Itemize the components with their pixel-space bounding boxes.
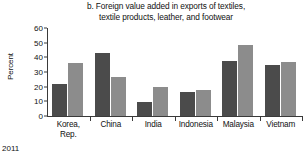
x-axis-category-label: Vietnam (260, 120, 303, 130)
bar (265, 65, 280, 116)
bar-group (132, 28, 175, 116)
x-axis-category-label-line: Rep. (47, 130, 90, 140)
bar-group (90, 28, 133, 116)
footnote: 2011 (2, 144, 19, 153)
bar-group (217, 28, 260, 116)
x-axis-category-label-line: China (90, 120, 133, 130)
bar-group (47, 28, 90, 116)
bar-group (175, 28, 218, 116)
x-axis-group-divider (260, 117, 261, 121)
bar (111, 77, 126, 116)
bar (68, 63, 83, 116)
bar (52, 84, 67, 116)
x-axis-category-label-line: Vietnam (260, 120, 303, 130)
bar (95, 53, 110, 116)
plot-area: 0102030405060 (47, 28, 302, 116)
x-axis-category-label-line: India (132, 120, 175, 130)
x-axis-category-label-line: Korea, (47, 120, 90, 130)
bar (153, 87, 168, 116)
bar (180, 92, 195, 116)
bar (238, 45, 253, 116)
chart-title-line-2: textile products, leather, and footwear (30, 12, 302, 23)
bar (281, 62, 296, 116)
x-axis-category-label: Indonesia (175, 120, 218, 130)
x-axis-group-divider (132, 117, 133, 121)
chart-title: b. Foreign value added in exports of tex… (30, 1, 302, 22)
x-axis-category-label: Malaysia (217, 120, 260, 130)
bar (196, 90, 211, 116)
x-axis-category-label: India (132, 120, 175, 130)
chart-figure: b. Foreign value added in exports of tex… (0, 0, 308, 159)
x-axis-group-divider (90, 117, 91, 121)
bar-group (260, 28, 303, 116)
x-axis-category-label-line: Malaysia (217, 120, 260, 130)
x-axis-category-label: Korea,Rep. (47, 120, 90, 139)
x-axis-group-divider (217, 117, 218, 121)
x-axis-group-divider (175, 117, 176, 121)
x-axis-category-label-line: Indonesia (175, 120, 218, 130)
x-axis-category-label: China (90, 120, 133, 130)
chart-title-line-1: b. Foreign value added in exports of tex… (30, 1, 302, 12)
x-axis-group-divider (302, 117, 303, 121)
y-axis-label: Percent (6, 43, 15, 91)
bar (222, 61, 237, 116)
bar (137, 102, 152, 116)
